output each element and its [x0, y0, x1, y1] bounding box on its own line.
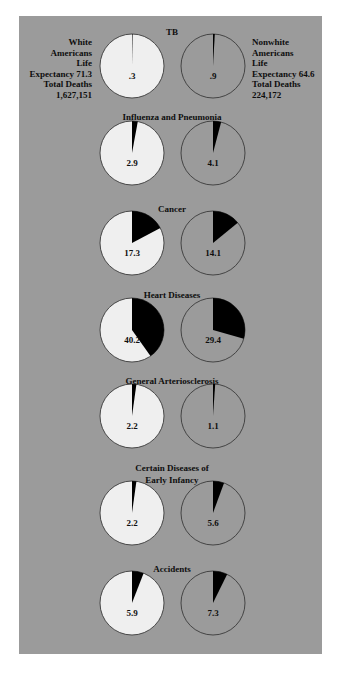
legend-nonwhite-line: Life: [252, 58, 268, 68]
pie-value-label: 5.9: [126, 608, 138, 618]
chart-title: Certain Diseases of: [135, 463, 209, 473]
pie-value-label: 4.1: [207, 158, 219, 168]
legend-nonwhite-line: Expectancy 64.6: [252, 69, 315, 79]
legend-nonwhite-line: Nonwhite: [252, 37, 289, 47]
pie-slice: [213, 298, 245, 339]
chart-title: Early Infancy: [145, 475, 199, 485]
pie-value-label: 40.2: [124, 335, 140, 345]
pie-value-label: 1.1: [207, 421, 219, 431]
pie-value-label: .3: [129, 71, 136, 81]
legend-white-line: 1,627,151: [56, 90, 93, 100]
pie-value-label: 7.3: [207, 608, 219, 618]
legend-white-line: Expectancy 71.3: [30, 69, 93, 79]
pie-white-6: 5.9: [100, 571, 164, 635]
pie-white-4: 2.2: [100, 384, 164, 448]
chart-title: Cancer: [158, 204, 186, 214]
chart-title: TB: [166, 27, 178, 37]
pie-nonwhite-6: 7.3: [181, 571, 245, 635]
chart-title: Influenza and Pneumonia: [122, 112, 222, 122]
pie-slice: [213, 571, 227, 603]
pie-nonwhite-4: 1.1: [181, 384, 245, 448]
legend-nonwhite-line: Total Deaths: [252, 79, 301, 89]
pie-slice: [213, 211, 238, 243]
pie-value-label: 2.9: [126, 158, 138, 168]
pie-nonwhite-1: 4.1: [181, 121, 245, 185]
pie-nonwhite-2: 14.1: [181, 211, 245, 275]
pie-value-label: 29.4: [205, 335, 221, 345]
legend-white-line: Americans: [51, 48, 93, 58]
pie-nonwhite-5: 5.6: [181, 481, 245, 545]
legend-nonwhite-line: 224,172: [252, 90, 282, 100]
pie-slice: [213, 121, 221, 153]
pie-slice: [213, 384, 215, 416]
pie-nonwhite-0: .9: [181, 34, 245, 98]
pie-white-3: 40.2: [100, 298, 164, 362]
pie-value-label: .9: [210, 71, 217, 81]
pie-slice: [213, 481, 224, 513]
pie-white-2: 17.3: [100, 211, 164, 275]
legend-white-line: White: [69, 37, 93, 47]
legend-white-line: Total Deaths: [44, 79, 93, 89]
pie-value-label: 14.1: [205, 248, 221, 258]
pie-white-0: .3: [100, 34, 164, 98]
chart-title: Heart Diseases: [144, 290, 201, 300]
pie-value-label: 2.2: [126, 421, 138, 431]
pie-white-5: 2.2: [100, 481, 164, 545]
pie-chart-figure: TB.3.9Influenza and Pneumonia2.94.1Cance…: [0, 0, 340, 674]
legend-nonwhite-line: Americans: [252, 48, 294, 58]
pie-nonwhite-3: 29.4: [181, 298, 245, 362]
pie-value-label: 5.6: [207, 518, 219, 528]
pie-white-1: 2.9: [100, 121, 164, 185]
legend-white-line: Life: [77, 58, 93, 68]
pie-value-label: 2.2: [126, 518, 138, 528]
pie-value-label: 17.3: [124, 248, 140, 258]
chart-title: Accidents: [153, 564, 191, 574]
pie-slice: [213, 34, 215, 66]
